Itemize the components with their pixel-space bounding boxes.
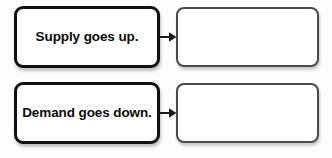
cause-effect-diagram: Supply goes up. Demand goes down.: [0, 0, 332, 158]
prompt-box[interactable]: Demand goes down.: [14, 82, 160, 144]
diagram-row: Supply goes up.: [0, 5, 332, 69]
arrow-right-icon: [159, 29, 177, 45]
prompt-box-label: Supply goes up.: [36, 30, 139, 45]
answer-box[interactable]: [176, 7, 319, 67]
prompt-box[interactable]: Supply goes up.: [14, 6, 160, 68]
arrow-right-icon: [159, 105, 177, 121]
answer-box[interactable]: [176, 83, 319, 143]
diagram-row: Demand goes down.: [0, 81, 332, 145]
prompt-box-label: Demand goes down.: [22, 106, 152, 121]
